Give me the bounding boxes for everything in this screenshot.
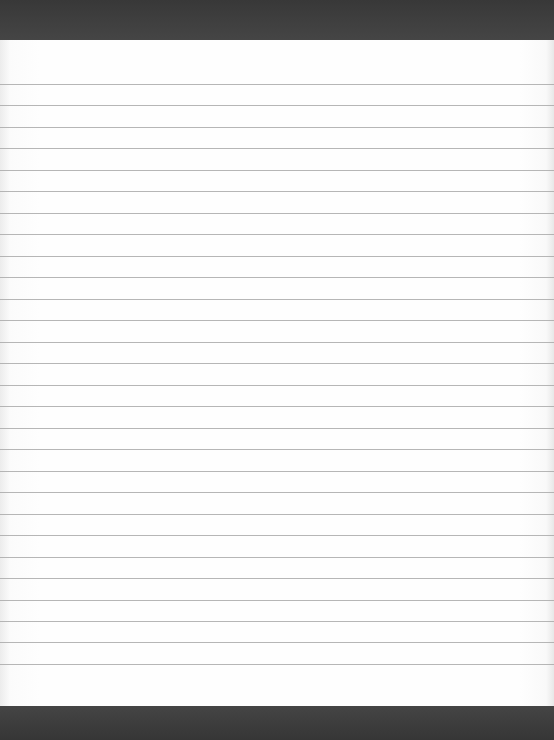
ruled-line — [0, 514, 554, 515]
ruled-line — [0, 84, 554, 85]
ruled-line — [0, 299, 554, 300]
scanner-bed-bottom — [0, 706, 554, 740]
ruled-line — [0, 148, 554, 149]
ruled-line — [0, 256, 554, 257]
ruled-line — [0, 191, 554, 192]
ruled-line — [0, 234, 554, 235]
ruled-line — [0, 578, 554, 579]
ruled-line — [0, 428, 554, 429]
ruled-line — [0, 385, 554, 386]
ruled-line — [0, 277, 554, 278]
ruled-line — [0, 406, 554, 407]
ruled-line — [0, 213, 554, 214]
ruled-line — [0, 557, 554, 558]
ruled-line — [0, 621, 554, 622]
ruled-line — [0, 642, 554, 643]
ruled-line — [0, 600, 554, 601]
ruled-line — [0, 449, 554, 450]
ruled-line — [0, 105, 554, 106]
ruled-line — [0, 342, 554, 343]
ruled-line — [0, 492, 554, 493]
ruled-line — [0, 363, 554, 364]
ruled-line — [0, 127, 554, 128]
ruled-line — [0, 535, 554, 536]
scanner-bed-top — [0, 0, 554, 40]
lined-paper-sheet: Blank ruled sheet — [0, 40, 554, 706]
ruled-line — [0, 664, 554, 665]
ruled-line — [0, 471, 554, 472]
ruled-line — [0, 320, 554, 321]
ruled-line — [0, 170, 554, 171]
